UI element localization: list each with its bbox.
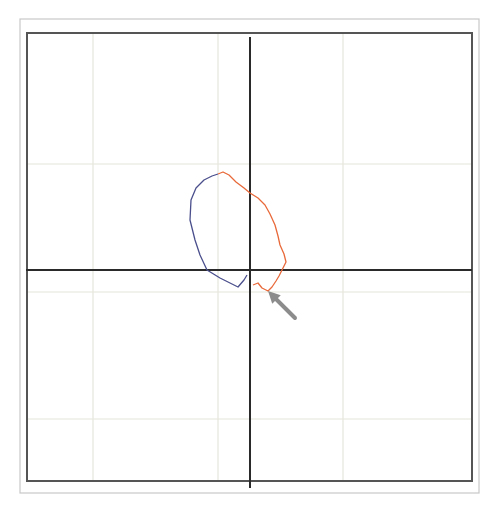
orange-segment <box>218 172 286 291</box>
arrow-shaft <box>276 299 295 318</box>
pointer-arrow-icon <box>268 291 295 318</box>
loop-curve <box>190 172 286 291</box>
plot-canvas <box>0 0 492 510</box>
